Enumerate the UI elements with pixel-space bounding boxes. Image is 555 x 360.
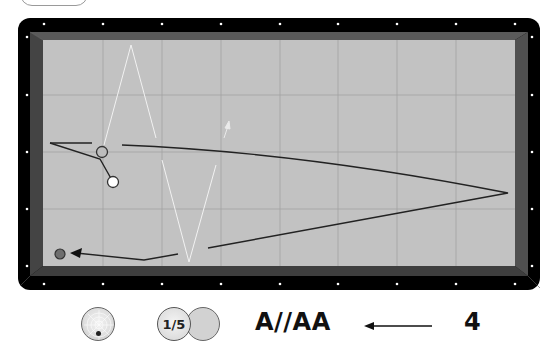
cushion-right (515, 32, 528, 276)
object-ball-1[interactable] (97, 147, 108, 158)
left-arrow-icon (364, 320, 434, 332)
controls-bar: 1/5 A//AA 4 (0, 300, 555, 350)
object-ball-2[interactable] (55, 249, 65, 259)
thickness-cue-ball: 1/5 (157, 307, 191, 341)
system-value: 4 (464, 308, 481, 336)
ball-thickness-selector[interactable]: 1/5 (157, 307, 252, 343)
cushion-bottom (30, 266, 528, 276)
target-grid-icon (82, 308, 115, 341)
cushion-left (30, 32, 43, 276)
system-name: A//AA (255, 308, 331, 336)
table-cloth (43, 40, 515, 266)
cue-tip-selector[interactable] (81, 307, 115, 341)
billiard-table (0, 0, 555, 300)
cushion-top (30, 32, 528, 40)
thickness-object-ball (186, 307, 220, 341)
cue-tip-dot (96, 331, 101, 336)
cue-ball[interactable] (108, 177, 119, 188)
